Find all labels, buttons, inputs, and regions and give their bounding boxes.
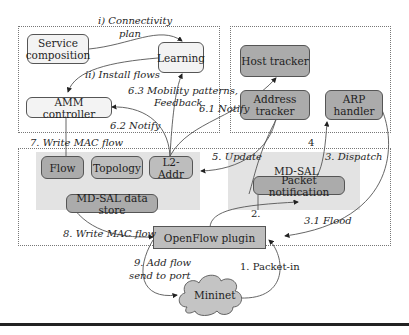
bottom-rule xyxy=(0,323,409,326)
l2-addr-label: L2-Addr xyxy=(150,156,192,180)
flow-label: Flow xyxy=(50,162,76,174)
learning-box: Learning xyxy=(158,42,204,73)
md-sal-data-store-label: MD-SAL data store xyxy=(67,192,157,216)
update-5-label: 5. Update xyxy=(212,151,262,162)
notify-6-2-label: 6.2 Notify xyxy=(110,120,160,131)
dispatch-3-label: 3. Dispatch xyxy=(325,151,383,162)
write-mac-flow-8-label: 8. Write MAC flow xyxy=(63,228,156,239)
packet-notification-box: Packet notification xyxy=(253,176,345,195)
host-tracker-box: Host tracker xyxy=(240,45,310,77)
step-4-label: 4 xyxy=(308,137,314,148)
connectivity-plan-label-1: i) Connectivity xyxy=(98,15,172,26)
add-flow-9b-label: send to port xyxy=(129,270,191,281)
flow-box: Flow xyxy=(41,156,84,179)
topology-label: Topology xyxy=(93,162,141,174)
learning-label: Learning xyxy=(157,52,205,64)
write-mac-flow-7-label: 7. Write MAC flow xyxy=(30,137,123,148)
l2-addr-box: L2-Addr xyxy=(149,156,193,179)
address-tracker-box: Address tracker xyxy=(240,90,310,120)
install-flows-label: ii) Install flows xyxy=(85,69,160,80)
add-flow-9a-label: 9. Add flow xyxy=(134,257,191,268)
connectivity-plan-label-2: plan xyxy=(119,28,141,39)
mobility-patterns-label: 6.3 Mobility patterns, xyxy=(128,85,238,96)
notify-6-1-label: 6.1 Notify xyxy=(199,103,249,114)
openflow-plugin-label: OpenFlow plugin xyxy=(164,232,255,244)
host-tracker-label: Host tracker xyxy=(241,55,308,67)
topology-box: Topology xyxy=(91,156,143,179)
packet-notification-label: Packet notification xyxy=(254,174,344,198)
packet-in-1-label: 1. Packet-in xyxy=(240,261,300,272)
arp-handler-label: ARP handler xyxy=(326,93,382,117)
address-tracker-label: Address tracker xyxy=(241,93,309,117)
openflow-plugin-box: OpenFlow plugin xyxy=(153,226,266,249)
feedback-label: Feedback xyxy=(154,97,203,108)
md-sal-data-store-box: MD-SAL data store xyxy=(66,194,158,213)
flood-3-1-label: 3.1 Flood xyxy=(304,215,352,226)
service-composition-label: Service composition xyxy=(26,37,91,61)
mininet-label: Mininet xyxy=(194,290,235,301)
arp-handler-box: ARP handler xyxy=(325,90,383,120)
service-composition-box: Service composition xyxy=(27,34,89,64)
amm-controller-box: AMM controller xyxy=(26,97,112,118)
amm-controller-label: AMM controller xyxy=(27,96,111,120)
step-2-label: 2. xyxy=(251,208,261,219)
